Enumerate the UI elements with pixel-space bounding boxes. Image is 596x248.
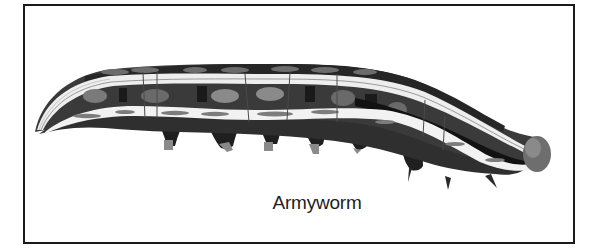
figure-frame: Armyworm xyxy=(23,4,575,244)
figure-caption: Armyworm xyxy=(25,192,573,214)
